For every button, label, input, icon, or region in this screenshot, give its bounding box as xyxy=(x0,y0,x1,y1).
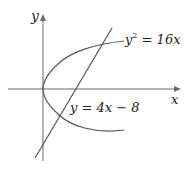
parabola-label-rest: = 16x xyxy=(137,32,180,47)
parabola-curve xyxy=(43,41,124,131)
line-equation-label: y = 4x − 8 xyxy=(70,101,140,114)
parabola-equation-label: y2 = 16x xyxy=(125,33,180,46)
diagram-canvas xyxy=(0,0,192,171)
line-graph xyxy=(35,28,112,158)
x-axis-label: x xyxy=(171,93,178,106)
y-axis-arrow-icon xyxy=(40,14,46,21)
y-axis-label: y xyxy=(31,9,39,23)
x-axis xyxy=(8,86,181,92)
